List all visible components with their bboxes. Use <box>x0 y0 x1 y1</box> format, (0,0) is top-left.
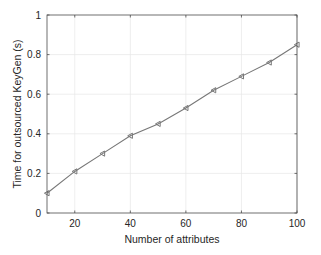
y-tick-label: 1 <box>35 10 41 21</box>
x-tick-label: 40 <box>125 218 137 229</box>
line-chart: 20406080100 00.20.40.60.81 Number of att… <box>0 0 321 255</box>
y-tick-label: 0.8 <box>27 49 41 60</box>
x-tick-label: 60 <box>180 218 192 229</box>
x-tick-label: 100 <box>289 218 306 229</box>
chart-background <box>0 0 321 255</box>
y-tick-label: 0.4 <box>27 128 41 139</box>
y-tick-label: 0.6 <box>27 89 41 100</box>
x-tick-label: 20 <box>69 218 81 229</box>
y-tick-label: 0 <box>35 208 41 219</box>
y-tick-label: 0.2 <box>27 168 41 179</box>
x-tick-label: 80 <box>236 218 248 229</box>
x-axis-label: Number of attributes <box>124 233 219 245</box>
y-axis-label: Time for outsourced KeyGen (s) <box>11 40 23 189</box>
